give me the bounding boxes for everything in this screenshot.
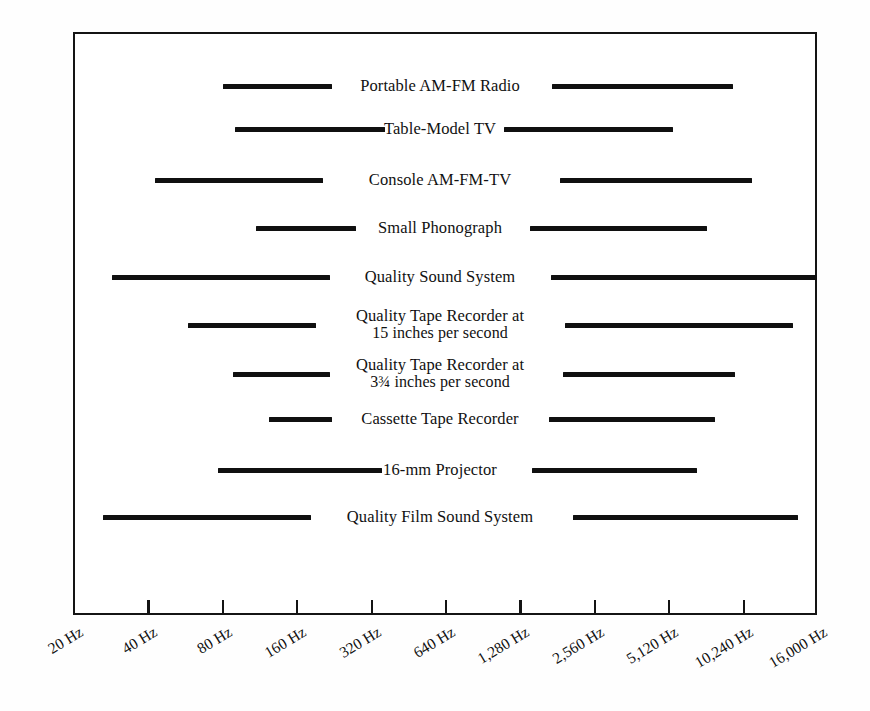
- bar-label: Quality Tape Recorder at15 inches per se…: [356, 308, 524, 341]
- bar-segment-right: [532, 468, 697, 473]
- bar-segment-right: [565, 323, 793, 328]
- axis-tick-label: 40 Hz: [119, 623, 160, 658]
- bar-segment-left: [103, 515, 311, 520]
- axis-tick: [371, 600, 373, 615]
- bar-segment-right: [551, 275, 817, 280]
- bar-segment-left: [112, 275, 330, 280]
- bar-segment-left: [218, 468, 382, 473]
- bar-segment-left: [235, 127, 385, 132]
- axis-tick: [147, 600, 149, 615]
- bar-segment-left: [155, 178, 323, 183]
- axis-tick-label: 80 Hz: [194, 623, 235, 658]
- axis-tick-label: 2,560 Hz: [549, 623, 607, 668]
- bar-segment-left: [256, 226, 356, 231]
- bar-segment-left: [269, 417, 332, 422]
- axis-tick-label: 20 Hz: [45, 623, 86, 658]
- axis-tick: [594, 600, 596, 615]
- bar-segment-right: [504, 127, 673, 132]
- bar-label: 16-mm Projector: [383, 462, 497, 479]
- bar-segment-right: [530, 226, 707, 231]
- bar-segment-left: [188, 323, 316, 328]
- bar-segment-right: [573, 515, 798, 520]
- axis-tick-label: 640 Hz: [410, 623, 458, 662]
- bar-label: Console AM-FM-TV: [369, 172, 511, 189]
- axis-tick-label: 16,000 Hz: [766, 623, 831, 672]
- bar-label: Table-Model TV: [384, 121, 496, 138]
- bar-segment-right: [549, 417, 715, 422]
- bar-label-line2: 3¾ inches per second: [356, 374, 524, 390]
- frequency-range-chart: Portable AM-FM RadioTable-Model TVConsol…: [0, 0, 870, 711]
- bar-label: Quality Film Sound System: [347, 509, 533, 526]
- bar-segment-left: [223, 84, 332, 89]
- axis-tick-label: 320 Hz: [336, 623, 384, 662]
- axis-tick: [743, 600, 745, 615]
- bar-segment-right: [552, 84, 733, 89]
- axis-tick-label: 10,240 Hz: [691, 623, 756, 672]
- bar-segment-right: [560, 178, 752, 183]
- bar-label-line2: 15 inches per second: [356, 325, 524, 341]
- bar-segment-right: [563, 372, 735, 377]
- axis-tick: [668, 600, 670, 615]
- bar-label: Small Phonograph: [378, 220, 502, 237]
- axis-tick: [445, 600, 447, 615]
- bar-label: Portable AM-FM Radio: [360, 78, 520, 95]
- axis-tick: [222, 600, 224, 615]
- bar-label: Quality Tape Recorder at3¾ inches per se…: [356, 357, 524, 390]
- axis-tick-label: 1,280 Hz: [475, 623, 533, 668]
- bar-label: Quality Sound System: [365, 269, 516, 286]
- axis-tick: [519, 600, 521, 615]
- axis-tick: [296, 600, 298, 615]
- axis-tick-label: 160 Hz: [261, 623, 309, 662]
- bar-label: Cassette Tape Recorder: [361, 411, 518, 428]
- bar-segment-left: [233, 372, 330, 377]
- axis-tick-label: 5,120 Hz: [623, 623, 681, 668]
